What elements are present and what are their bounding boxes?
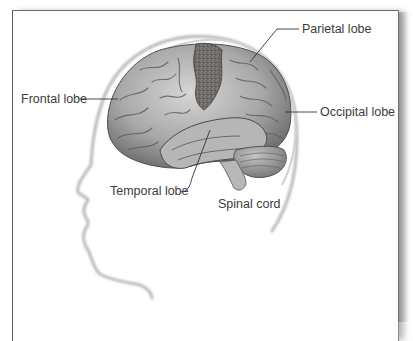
label-frontal-lobe: Frontal lobe: [21, 93, 87, 106]
label-parietal-lobe: Parietal lobe: [302, 23, 372, 36]
label-spinal-cord: Spinal cord: [218, 198, 281, 211]
label-occipital-lobe: Occipital lobe: [320, 106, 395, 119]
brain: [108, 43, 291, 190]
label-temporal-lobe: Temporal lobe: [110, 185, 189, 198]
